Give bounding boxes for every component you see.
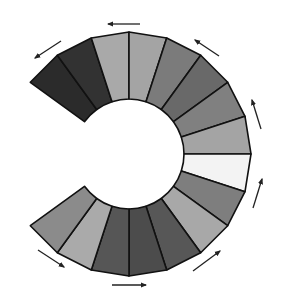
segmented-ring-diagram: [0, 0, 283, 305]
arrow-right-upper-icon: [252, 100, 261, 129]
ring-canvas: [0, 0, 283, 305]
arrow-right-lower-icon: [253, 179, 262, 208]
ring-segments: [30, 32, 251, 276]
